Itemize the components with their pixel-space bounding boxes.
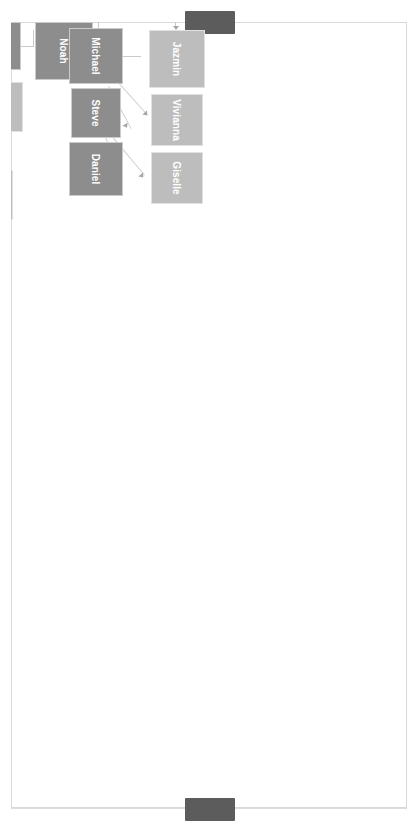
connector-arrow [138,173,145,180]
connector-arrow [122,123,129,129]
family-tree-canvas: Luna Fernandez 1937 - 1965 Longinos Barr… [11,22,209,610]
node-michael[interactable]: Michael [69,28,123,84]
diagram-viewport[interactable]: Luna Fernandez 1937 - 1965 Longinos Barr… [11,22,407,808]
node-jazmin[interactable]: Jazmin [149,30,205,88]
node-label: Michael [91,31,102,81]
node-kelsey[interactable]: Kelsey [11,170,13,220]
node-dana[interactable]: Dana [11,22,21,70]
node-label: Vivianna [172,97,183,143]
node-label: Jazmin [172,33,183,85]
node-daniel[interactable]: Daniel [69,142,123,196]
node-label: Giselle [172,155,183,201]
node-vivianna[interactable]: Vivianna [151,94,203,146]
node-label: Noah [59,25,70,77]
node-giselle[interactable]: Giselle [151,152,203,204]
node-label: Steve [91,91,102,135]
connector [33,30,34,46]
node-need-name-b[interactable]: need name [11,82,23,132]
node-steve[interactable]: Steve [71,88,121,138]
screen: Luna Fernandez 1937 - 1965 Longinos Barr… [0,0,420,832]
node-label: Daniel [91,145,102,193]
